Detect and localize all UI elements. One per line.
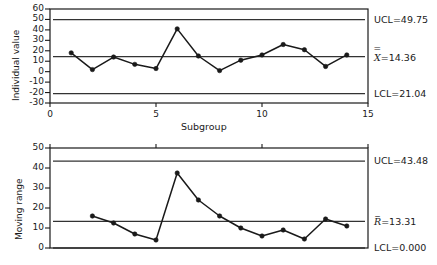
individuals-chart-panel: Individual value 6050403020100-10-20-30 … (0, 0, 437, 135)
moving-range-centerline-value: =13.31 (381, 216, 416, 227)
moving-range-plot-area (0, 130, 437, 265)
individuals-plot-area (0, 0, 437, 135)
moving-range-ucl-annotation: UCL=43.48 (374, 155, 428, 166)
double-overbar-glyph: = (374, 47, 382, 49)
xbarbar-symbol: X (374, 52, 381, 63)
moving-range-lcl-annotation: LCL=0.000 (374, 242, 426, 253)
rbar-symbol: R (374, 216, 381, 227)
moving-range-chart-panel: Moving range 50403020100 UCL=43.48 _R=13… (0, 130, 437, 265)
moving-range-centerline-annotation: _R=13.31 (374, 216, 416, 227)
individuals-ucl-annotation: UCL=49.75 (374, 14, 428, 25)
individuals-lcl-annotation: LCL=21.04 (374, 88, 426, 99)
control-chart-figure: Individual value 6050403020100-10-20-30 … (0, 0, 437, 265)
individuals-centerline-annotation: =X=14.36 (374, 52, 416, 63)
single-overbar-glyph: _ (375, 211, 380, 213)
individuals-centerline-value: =14.36 (381, 52, 416, 63)
